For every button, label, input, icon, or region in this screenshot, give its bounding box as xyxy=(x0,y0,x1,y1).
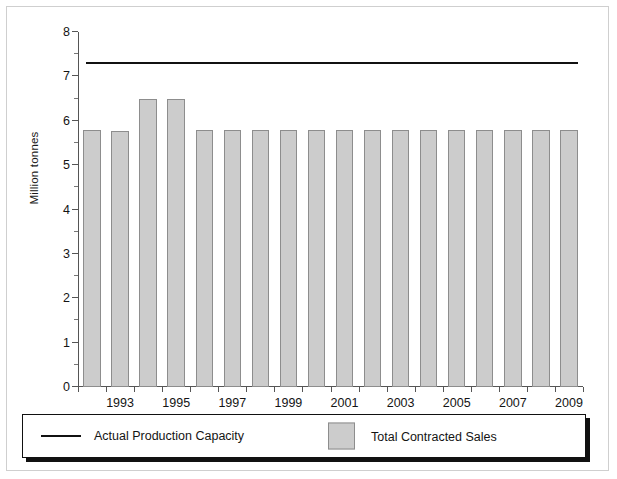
x-axis-tick xyxy=(246,387,247,392)
y-axis-tick-label: 3 xyxy=(63,247,66,261)
legend-item-contracted-sales: Total Contracted Sales xyxy=(328,423,497,450)
bar-1992 xyxy=(83,130,100,387)
production-capacity-line xyxy=(86,62,578,64)
y-axis-tick-major xyxy=(72,164,78,165)
bar-2009 xyxy=(560,130,577,387)
y-axis-tick-major xyxy=(72,297,78,298)
x-axis-tick-label: 1997 xyxy=(218,396,246,410)
x-axis-tick xyxy=(106,387,107,392)
y-axis-tick-label: 2 xyxy=(63,291,66,305)
y-axis-tick-label: 6 xyxy=(63,114,66,128)
bar-1999 xyxy=(280,130,297,387)
legend-label-contracted-sales: Total Contracted Sales xyxy=(371,429,497,443)
x-axis-tick xyxy=(387,387,388,392)
x-axis-tick xyxy=(162,387,163,392)
x-axis-tick xyxy=(302,387,303,392)
plot-area: Million tonnes 0123456781993199519971999… xyxy=(18,12,598,404)
y-axis-tick-minor xyxy=(74,364,78,365)
bar-1996 xyxy=(196,130,213,387)
y-axis-tick-minor xyxy=(74,53,78,54)
y-axis-line xyxy=(78,32,79,387)
x-axis-tick-label: 2005 xyxy=(443,396,471,410)
y-axis-tick-minor xyxy=(74,275,78,276)
x-axis-tick xyxy=(78,387,79,392)
bar-1997 xyxy=(224,130,241,387)
x-axis-tick xyxy=(527,387,528,392)
x-axis-tick xyxy=(274,387,275,392)
x-axis-tick-label: 2001 xyxy=(331,396,359,410)
box-swatch-icon xyxy=(328,423,355,450)
y-axis-tick-label: 8 xyxy=(63,25,66,39)
y-axis-tick-minor xyxy=(74,231,78,232)
x-axis-tick xyxy=(134,387,135,392)
x-axis-tick xyxy=(218,387,219,392)
chart-legend: Actual Production Capacity Total Contrac… xyxy=(22,414,586,458)
x-axis-tick-label: 1993 xyxy=(106,396,134,410)
chart-figure: Million tonnes 0123456781993199519971999… xyxy=(0,0,617,479)
x-axis-tick xyxy=(555,387,556,392)
y-axis-tick-label: 4 xyxy=(63,203,66,217)
bar-2003 xyxy=(392,130,409,387)
bar-2000 xyxy=(308,130,325,387)
y-axis-tick-label: 1 xyxy=(63,336,66,350)
x-axis-tick xyxy=(331,387,332,392)
y-axis-tick-minor xyxy=(74,98,78,99)
y-axis-tick-label: 7 xyxy=(63,69,66,83)
y-axis-tick-major xyxy=(72,342,78,343)
y-axis-tick-label: 0 xyxy=(63,380,66,394)
x-axis-tick xyxy=(583,387,584,392)
y-axis-tick-minor xyxy=(74,186,78,187)
y-axis-tick-major xyxy=(72,209,78,210)
x-axis-tick-label: 2007 xyxy=(499,396,527,410)
y-axis-tick-major xyxy=(72,253,78,254)
bar-2002 xyxy=(364,130,381,387)
y-axis-tick-minor xyxy=(74,319,78,320)
legend-label-production-capacity: Actual Production Capacity xyxy=(94,429,244,443)
axes: 0123456781993199519971999200120032005200… xyxy=(78,32,583,387)
y-axis-tick-major xyxy=(72,120,78,121)
x-axis-tick-label: 2009 xyxy=(555,396,583,410)
x-axis-tick xyxy=(499,387,500,392)
legend-item-production-capacity: Actual Production Capacity xyxy=(41,429,244,443)
bar-2005 xyxy=(448,130,465,387)
y-axis-tick-label: 5 xyxy=(63,158,66,172)
x-axis-tick xyxy=(359,387,360,392)
bar-2004 xyxy=(420,130,437,387)
y-axis-tick-major xyxy=(72,31,78,32)
bar-2006 xyxy=(476,130,493,387)
y-axis-tick-major xyxy=(72,75,78,76)
bar-2007 xyxy=(504,130,521,387)
bar-1993 xyxy=(111,131,128,387)
bar-1994 xyxy=(139,99,156,387)
x-axis-tick xyxy=(190,387,191,392)
bar-1995 xyxy=(167,99,184,387)
x-axis-tick xyxy=(443,387,444,392)
line-swatch-icon xyxy=(41,435,81,437)
y-axis-title: Million tonnes xyxy=(28,108,40,228)
x-axis-tick-label: 1995 xyxy=(162,396,190,410)
x-axis-tick xyxy=(471,387,472,392)
x-axis-tick-label: 1999 xyxy=(275,396,303,410)
bar-2008 xyxy=(532,130,549,387)
bar-2001 xyxy=(336,130,353,387)
bar-1998 xyxy=(252,130,269,387)
x-axis-tick-label: 2003 xyxy=(387,396,415,410)
x-axis-tick xyxy=(415,387,416,392)
y-axis-tick-minor xyxy=(74,142,78,143)
